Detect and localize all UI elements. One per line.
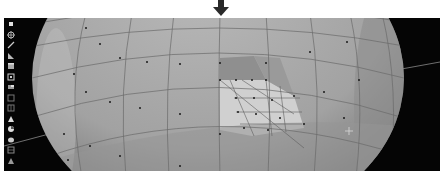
down-arrow-indicator	[212, 0, 230, 17]
tool-extrude[interactable]	[5, 72, 17, 82]
loop-cut-icon	[7, 104, 15, 112]
smooth-icon	[7, 146, 15, 154]
annotate-icon	[7, 41, 15, 49]
select-box-icon	[7, 20, 15, 28]
3d-viewport[interactable]	[4, 18, 440, 171]
tool-measure[interactable]	[5, 51, 17, 61]
measure-icon	[7, 52, 15, 60]
tool-inset[interactable]	[5, 82, 17, 92]
extrude-icon	[7, 73, 15, 81]
tool-knife[interactable]	[5, 114, 17, 124]
tool-cursor[interactable]	[5, 30, 17, 40]
mesh-sphere[interactable]	[4, 18, 440, 171]
tool-annotate[interactable]	[5, 40, 17, 50]
tool-spin[interactable]	[5, 135, 17, 145]
tool-select-box[interactable]	[5, 19, 17, 29]
tool-bevel[interactable]	[5, 93, 17, 103]
inset-icon	[7, 83, 15, 91]
tool-strip	[4, 18, 18, 171]
tool-smooth[interactable]	[5, 145, 17, 155]
poly-build-icon	[7, 125, 15, 133]
tool-poly-build[interactable]	[5, 124, 17, 134]
bevel-icon	[7, 94, 15, 102]
tool-loop-cut[interactable]	[5, 103, 17, 113]
down-arrow-icon	[212, 0, 230, 17]
add-cube-icon	[7, 62, 15, 70]
shear-icon	[7, 157, 15, 165]
knife-icon	[7, 115, 15, 123]
spin-icon	[7, 136, 15, 144]
tool-add-cube[interactable]	[5, 61, 17, 71]
tool-shear[interactable]	[5, 156, 17, 166]
cursor-icon	[7, 31, 15, 39]
